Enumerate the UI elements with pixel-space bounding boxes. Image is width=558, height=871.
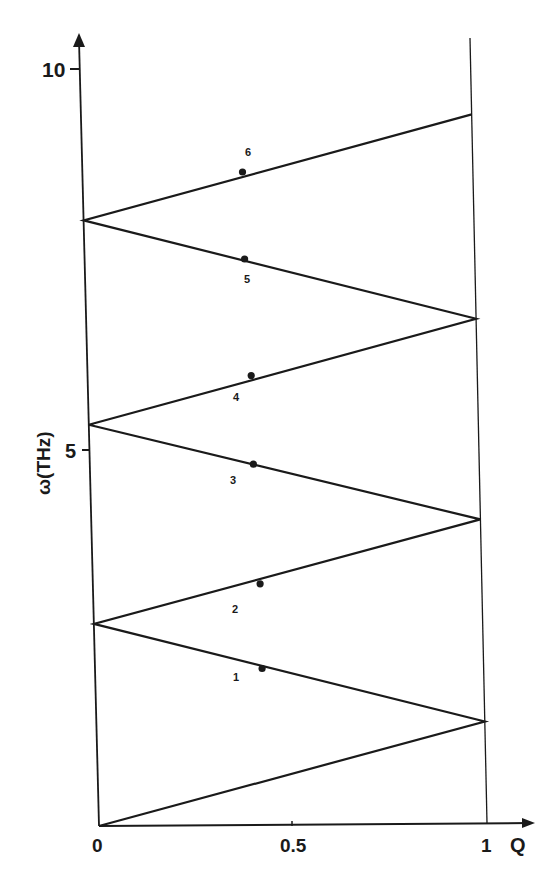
data-point-4 bbox=[248, 372, 255, 379]
dispersion-chart: 10 5 0 0.5 1 Q ω(THz) 1 2 3 4 5 6 bbox=[0, 0, 558, 871]
branch-label-5: 5 bbox=[244, 273, 250, 285]
y-tick-label-5: 5 bbox=[65, 440, 76, 462]
branch-label-6: 6 bbox=[245, 146, 251, 158]
q-one-line bbox=[470, 38, 487, 823]
x-axis-arrow-icon bbox=[522, 818, 535, 828]
y-axis bbox=[79, 40, 99, 826]
data-point-2 bbox=[257, 580, 264, 587]
y-tick-label-10: 10 bbox=[42, 58, 65, 81]
branch-label-2: 2 bbox=[232, 603, 238, 615]
data-point-1 bbox=[259, 665, 266, 672]
axes bbox=[70, 33, 535, 828]
x-axis bbox=[99, 823, 530, 826]
data-point-6 bbox=[239, 168, 246, 175]
x-axis-label: Q bbox=[510, 834, 526, 856]
y-axis-label: ω(THz) bbox=[33, 431, 54, 495]
data-point-3 bbox=[250, 461, 257, 468]
branch-label-4: 4 bbox=[233, 391, 240, 403]
tick-labels: 10 5 0 0.5 1 Q ω(THz) bbox=[33, 58, 526, 856]
data-point-5 bbox=[241, 255, 248, 262]
y-axis-arrow-icon bbox=[73, 33, 85, 47]
data-points bbox=[239, 168, 266, 672]
x-tick-label-05: 0.5 bbox=[280, 835, 307, 856]
branch-label-1: 1 bbox=[233, 671, 239, 683]
x-tick-label-1: 1 bbox=[481, 835, 492, 856]
dispersion-branches bbox=[84, 114, 485, 826]
branch-label-3: 3 bbox=[230, 474, 236, 486]
dispersion-line bbox=[84, 114, 485, 826]
branch-labels: 1 2 3 4 5 6 bbox=[230, 146, 251, 683]
x-tick-label-0: 0 bbox=[92, 835, 103, 856]
